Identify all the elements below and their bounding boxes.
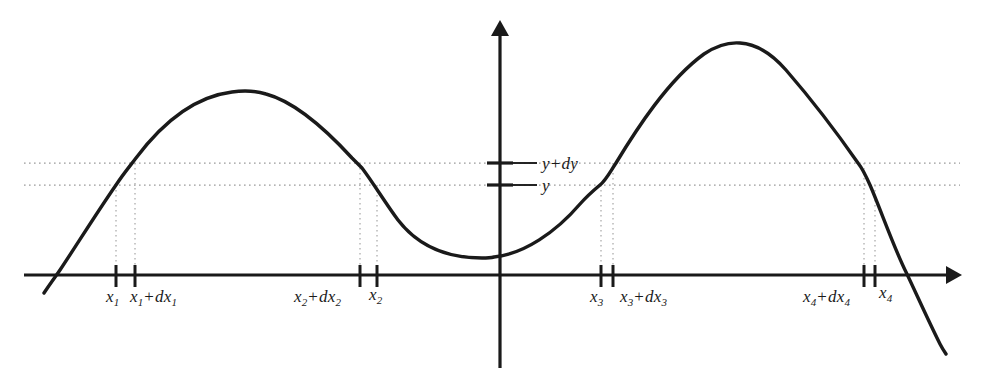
y-axis-label-y-plus-dy: y+dy xyxy=(542,155,578,172)
label-op: + xyxy=(143,287,155,306)
label-base: x xyxy=(369,285,377,304)
label-op: + xyxy=(816,287,828,306)
label-diff-base: dx xyxy=(828,287,844,306)
label-sub: 3 xyxy=(598,296,604,308)
x-axis-label-x4-dx4: x4+dx4 xyxy=(803,288,850,308)
label-base: x xyxy=(803,287,811,306)
y-axis-label-y: y xyxy=(542,177,550,194)
label-diff-sub: 1 xyxy=(172,296,178,308)
label-base: x xyxy=(620,287,628,306)
y-axis-arrowhead-icon xyxy=(491,20,509,36)
label-op: + xyxy=(550,154,562,173)
label-diff-base: dx xyxy=(319,287,335,306)
y-axis-tick-marks xyxy=(487,163,537,185)
x-axis-label-x2: x2 xyxy=(369,286,382,306)
label-base: x xyxy=(879,283,887,302)
label-base: x xyxy=(130,287,138,306)
label-diff-base: dx xyxy=(645,287,661,306)
diagram-svg xyxy=(0,0,983,383)
label-diff-sub: 3 xyxy=(662,296,668,308)
label-diff: dy xyxy=(562,154,578,173)
x-axis-label-x1-dx1: x1+dx1 xyxy=(130,288,177,308)
x-axis-label-x1: x1 xyxy=(106,288,119,308)
x-axis-label-x3-dx3: x3+dx3 xyxy=(620,288,667,308)
figure-canvas: x1 x1+dx1 x2+dx2 x2 x3 x3+dx3 x4+dx4 x4 … xyxy=(0,0,983,383)
axes-group xyxy=(24,20,962,368)
guide-lines-horizontal xyxy=(24,163,960,185)
label-base: y xyxy=(542,154,550,173)
label-sub: 1 xyxy=(114,296,120,308)
label-op: + xyxy=(307,287,319,306)
label-op: + xyxy=(633,287,645,306)
label-base: x xyxy=(294,287,302,306)
label-diff-sub: 2 xyxy=(336,296,342,308)
x-axis-arrowhead-icon xyxy=(946,266,962,284)
label-base: y xyxy=(542,176,550,195)
x-axis-label-x3: x3 xyxy=(590,288,603,308)
label-diff-base: dx xyxy=(155,287,171,306)
label-base: x xyxy=(590,287,598,306)
label-sub: 4 xyxy=(887,292,893,304)
label-sub: 2 xyxy=(377,294,383,306)
label-base: x xyxy=(106,287,114,306)
x-axis-label-x4: x4 xyxy=(879,284,892,304)
label-diff-sub: 4 xyxy=(845,296,851,308)
guide-lines-vertical xyxy=(116,163,875,268)
x-axis-label-x2-dx2: x2+dx2 xyxy=(294,288,341,308)
